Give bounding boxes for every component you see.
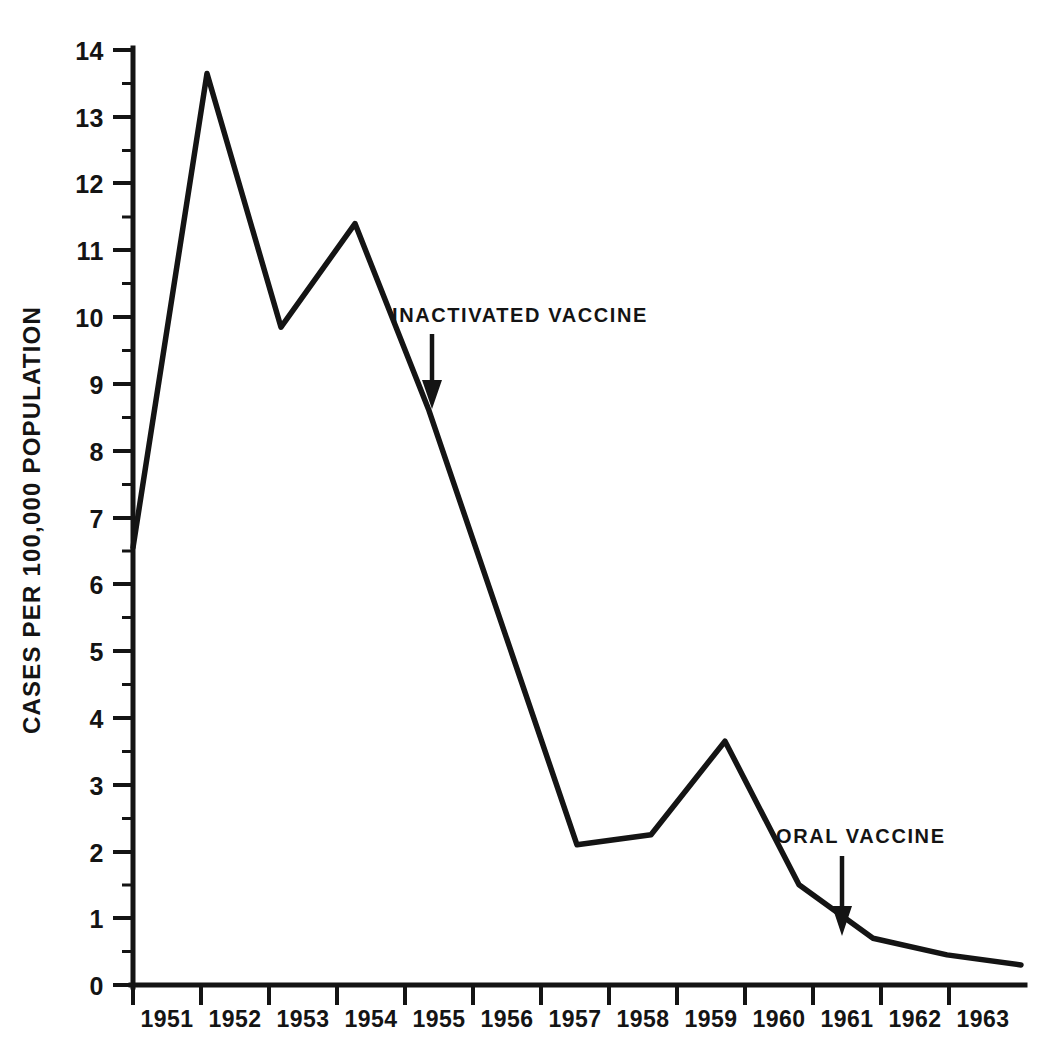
y-tick-label-12: 12: [75, 170, 104, 198]
x-tick-label-1962: 1962: [889, 1006, 942, 1032]
oral-vaccine-label: ORAL VACCINE: [776, 825, 946, 847]
x-tick-label-1963: 1963: [957, 1006, 1010, 1032]
chart-background: [0, 0, 1051, 1049]
x-tick-label-1955: 1955: [413, 1006, 466, 1032]
y-tick-label-8: 8: [90, 438, 104, 466]
y-tick-label-0: 0: [90, 972, 104, 1000]
x-tick-label-1959: 1959: [685, 1006, 738, 1032]
y-tick-label-9: 9: [90, 371, 104, 399]
x-tick-label-1958: 1958: [617, 1006, 670, 1032]
y-tick-label-5: 5: [90, 638, 104, 666]
chart-figure: 14 13 12 11 10 9 8 7 6 5 4 3 2 1 0 CASES…: [0, 0, 1051, 1049]
y-tick-label-4: 4: [90, 705, 104, 733]
x-tick-label-1951: 1951: [141, 1006, 194, 1032]
x-tick-label-1957: 1957: [549, 1006, 602, 1032]
x-tick-label-1956: 1956: [481, 1006, 534, 1032]
y-tick-label-1: 1: [90, 905, 104, 933]
y-tick-label-3: 3: [90, 772, 104, 800]
inactivated-vaccine-label: INACTIVATED VACCINE: [392, 304, 648, 326]
x-tick-label-1960: 1960: [753, 1006, 806, 1032]
x-tick-label-1952: 1952: [209, 1006, 262, 1032]
y-tick-label-7: 7: [90, 505, 104, 533]
poliomyelitis-incidence-line-chart: 14 13 12 11 10 9 8 7 6 5 4 3 2 1 0 CASES…: [0, 0, 1051, 1049]
y-tick-label-11: 11: [77, 237, 104, 265]
y-axis-title: CASES PER 100,000 POPULATION: [18, 306, 45, 734]
y-tick-label-14: 14: [75, 37, 104, 65]
x-tick-label-1961: 1961: [821, 1006, 874, 1032]
y-tick-label-2: 2: [90, 839, 104, 867]
x-tick-label-1953: 1953: [277, 1006, 330, 1032]
y-tick-label-13: 13: [75, 104, 104, 132]
y-tick-label-6: 6: [90, 571, 104, 599]
y-tick-label-10: 10: [75, 304, 104, 332]
x-tick-label-1954: 1954: [345, 1006, 398, 1032]
